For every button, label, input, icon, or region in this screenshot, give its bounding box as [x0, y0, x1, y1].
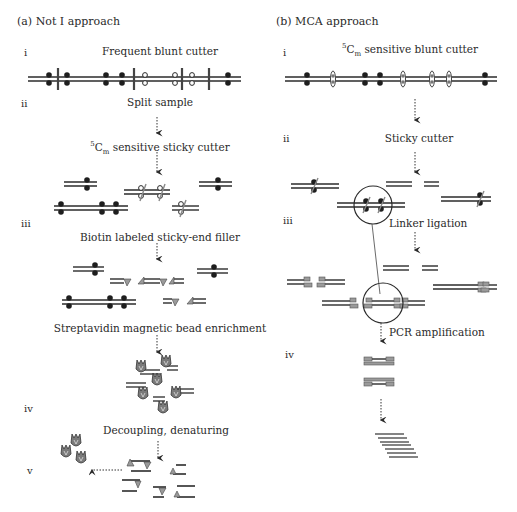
biotin-triangles [124, 277, 193, 306]
zoom-circle-top [354, 186, 392, 224]
panel-b-genomic-dna [285, 77, 497, 81]
panel-b-fragments-iii [291, 182, 491, 207]
label-streptavidin-enrichment: Streptavidin magnetic bead enrichment [54, 322, 266, 334]
panel-a-single-strands [122, 461, 195, 497]
panel-b-step-iv: iv [285, 349, 294, 360]
label-split-sample: Split sample [127, 96, 193, 108]
label-pcr-amplification: PCR amplification [389, 326, 485, 338]
panel-b-step-ii: ii [283, 133, 289, 144]
label-text: sensitive blunt cutter [361, 43, 478, 55]
amplified-stack [375, 434, 418, 457]
c-letter: C [95, 141, 103, 153]
panel-a-cut-sites [58, 68, 209, 90]
pcr-products [364, 357, 394, 386]
label-biotin-filler: Biotin labeled sticky-end filler [80, 231, 240, 243]
label-linker-ligation: Linker ligation [389, 217, 467, 229]
label-decoupling: Decoupling, denaturing [103, 424, 229, 436]
panel-b-step-iii: iii [283, 215, 293, 226]
panel-a-step-i: i [24, 47, 27, 58]
diagram-graphics [0, 0, 517, 512]
streptavidin-bead-cluster [126, 355, 194, 413]
panel-a-step-ii: ii [21, 98, 27, 109]
panel-a-step-iv: iv [24, 403, 33, 414]
label-sensitive-sticky-cutter: 5Cm sensitive sticky cutter [90, 140, 229, 156]
panel-a-step-iii: iii [21, 218, 31, 229]
label-sticky-cutter: Sticky cutter [385, 132, 454, 144]
label-text: sensitive sticky cutter [109, 141, 229, 153]
c-letter: C [346, 43, 354, 55]
label-sensitive-blunt-cutter: 5Cm sensitive blunt cutter [342, 42, 478, 58]
panel-a-title: (a) Not I approach [17, 15, 120, 28]
zoom-circle-bottom [363, 283, 403, 323]
label-frequent-blunt-cutter: Frequent blunt cutter [102, 45, 218, 57]
panel-a-fragments-biotin [62, 267, 228, 304]
panel-b-title: (b) MCA approach [276, 15, 379, 28]
panel-a-step-v: v [27, 465, 33, 476]
diagram-figure: (a) Not I approach i Frequent blunt cutt… [0, 0, 517, 512]
panel-b-step-i: i [283, 47, 286, 58]
